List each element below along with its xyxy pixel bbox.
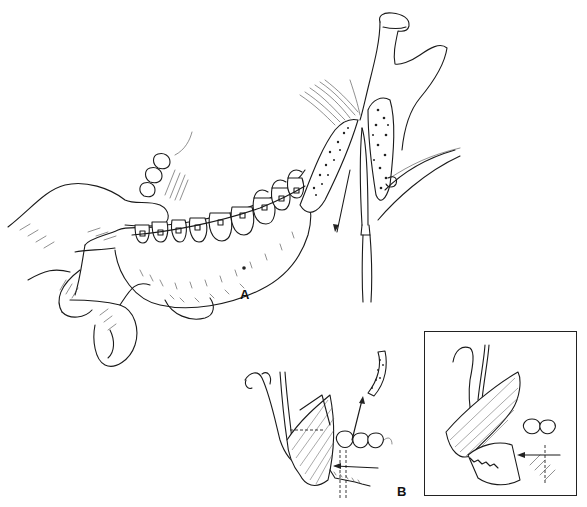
panel-a-drawing: [8, 13, 460, 366]
panel-b-drawing: [245, 351, 392, 498]
inset-frame: [424, 331, 577, 496]
surgical-illustration: A B: [0, 0, 587, 507]
panel-label-a: A: [240, 287, 249, 302]
panel-label-b: B: [397, 484, 406, 499]
